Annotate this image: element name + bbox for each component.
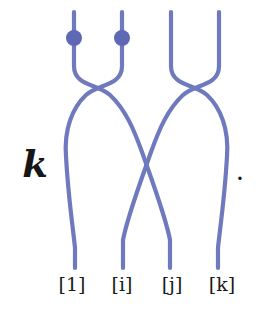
trailing-period: .: [232, 158, 248, 184]
dot-strand-2: [114, 30, 130, 46]
strand-label-j: [j]: [152, 272, 192, 296]
braid-figure: k . [1] [i] [j] [k]: [0, 0, 265, 322]
dot-group: [66, 30, 130, 46]
strand-label-row: [1] [i] [j] [k]: [52, 272, 242, 306]
strand-label-1: [1]: [52, 272, 92, 296]
dot-strand-1: [66, 30, 82, 46]
strand-label-i: [i]: [102, 272, 142, 296]
coefficient-label: k: [8, 136, 62, 192]
strand-group: [66, 12, 228, 268]
strand-label-k: [k]: [202, 272, 242, 296]
